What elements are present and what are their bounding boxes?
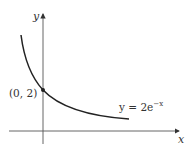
point-0-2 (41, 88, 45, 92)
curve-2e-neg-x (21, 35, 129, 119)
x-axis-label: x (178, 133, 185, 146)
y-axis-label: y (32, 10, 40, 23)
curve-label: y = 2e−x (118, 100, 163, 113)
point-label: (0, 2) (9, 87, 37, 99)
exponential-decay-graph: y x (0, 2) y = 2e−x (0, 0, 185, 153)
